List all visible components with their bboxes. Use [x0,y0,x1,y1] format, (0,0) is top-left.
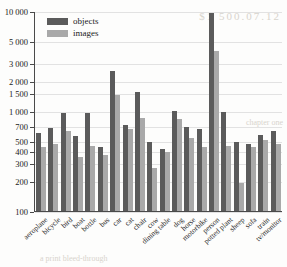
y-axis-tick [30,212,34,213]
bar-group [123,12,133,211]
y-axis-tick [30,112,34,113]
bar-group [160,12,170,211]
plot-area: 1002003004005007001 0001 5002 0003 0005 … [34,12,282,212]
bar-group [258,12,268,211]
bar-images [41,147,46,211]
legend-swatch-images [47,30,68,37]
bar-group [197,12,207,211]
y-axis-tick-label: 1 500 [9,90,28,99]
y-axis-tick [30,42,34,43]
legend-label-objects: objects [73,17,99,26]
bar-images [78,157,83,211]
bar-group [61,12,71,211]
y-axis-tick-label: 200 [15,178,28,187]
chart-legend: objects images [44,15,102,40]
y-axis-tick-label: 10 000 [5,8,28,17]
bar-group [234,12,244,211]
bar-group [110,12,120,211]
bar-images [115,95,120,211]
bar-series-container [35,12,282,211]
y-axis-tick [30,127,34,128]
bar-group [184,12,194,211]
bar-images [202,147,207,211]
bar-group [271,12,281,211]
y-axis-tick [30,12,34,13]
legend-label-images: images [73,29,99,38]
y-axis-tick [30,152,34,153]
x-axis-tick-label: car [111,216,123,228]
bar-images [263,140,268,211]
y-axis-tick-label: 3 000 [9,60,28,69]
y-axis-tick-label: 300 [15,160,28,169]
y-axis-tick-label: 700 [15,123,28,132]
bar-group [85,12,95,211]
bar-group [209,12,219,211]
bar-images [239,183,244,211]
y-axis-tick-label: 1 000 [9,108,28,117]
bar-group [246,12,256,211]
x-axis-tick-labels: aeroplanebicyclebirdboatbottlebuscarcatc… [35,214,283,267]
bar-images [90,146,95,211]
y-axis-tick-label: 400 [15,148,28,157]
bar-images [276,144,281,211]
bar-chart: $1 500.07.12 chapter one a print bleed-t… [0,0,287,267]
bar-images [251,147,256,211]
bar-images [66,131,71,211]
bar-images [53,144,58,211]
bar-group [73,12,83,211]
legend-item-objects: objects [47,17,99,26]
legend-swatch-objects [47,18,68,25]
bar-group [98,12,108,211]
bar-images [177,119,182,211]
x-axis-tick-label: bus [98,216,111,229]
bar-group [135,12,145,211]
bar-images [189,138,194,211]
bar-images [152,168,157,211]
y-axis-tick [30,142,34,143]
gridline [35,212,282,213]
y-axis-tick [30,94,34,95]
bar-images [226,146,231,211]
y-axis-tick-label: 100 [15,208,28,217]
y-axis-tick [30,164,34,165]
bar-group [221,12,231,211]
y-axis-tick [30,64,34,65]
bar-images [128,129,133,211]
legend-item-images: images [47,29,99,38]
y-axis-tick [30,182,34,183]
bar-images [103,155,108,211]
y-axis-tick [30,82,34,83]
bar-group [48,12,58,211]
bar-images [165,152,170,211]
bar-group [36,12,46,211]
y-axis-tick-label: 5 000 [9,38,28,47]
bar-images [214,51,219,211]
bar-group [172,12,182,211]
bar-images [140,118,145,211]
bar-group [147,12,157,211]
y-axis-tick-label: 2 000 [9,78,28,87]
y-axis-tick-label: 500 [15,138,28,147]
